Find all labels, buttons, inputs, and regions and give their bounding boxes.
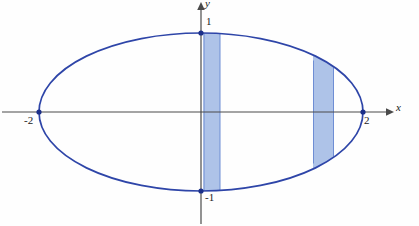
y-axis-arrowhead-icon [197,2,205,10]
x-axis-label: x [396,101,401,113]
tick-label-x-2: 2 [364,114,370,126]
point-0-1 [198,30,203,35]
tick-label-x-neg2: -2 [24,114,33,126]
x-axis-arrowhead-icon [386,108,394,116]
ellipse-figure: x y 1 -1 -2 2 [0,0,419,226]
point-neg2-0 [36,109,41,114]
y-axis-label: y [205,0,210,9]
point-0-neg1 [198,188,203,193]
tick-label-y-neg1: -1 [205,191,214,203]
tick-label-y-1: 1 [206,15,212,27]
x-axis-group [2,108,394,116]
